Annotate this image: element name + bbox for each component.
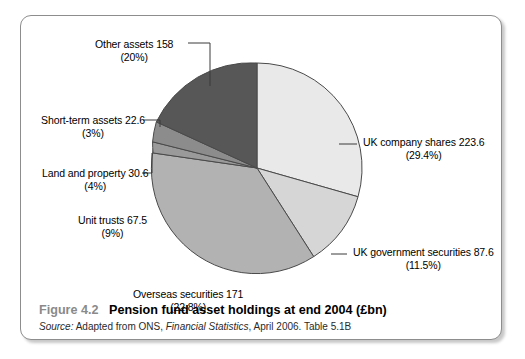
figure-number: Figure 4.2 (39, 303, 99, 317)
label-uk-company-shares-percent: (29.4%) (363, 149, 484, 162)
source-text-after: , April 2006. Table 5.1B (249, 321, 352, 332)
caption-title-line: Figure 4.2 Pension fund asset holdings a… (39, 302, 489, 319)
source-prefix: Source: (39, 321, 73, 332)
figure-source-line: Source: Adapted from ONS, Financial Stat… (39, 320, 489, 334)
label-unit-trusts-value: Unit trusts 67.5 (78, 214, 147, 227)
label-overseas-securities-value: Overseas securities 171 (133, 288, 243, 301)
label-other-assets: Other assets 158 (20%) (95, 38, 173, 64)
pie-chart-area: Other assets 158 (20%) Short-term assets… (21, 16, 503, 287)
source-text-before: Adapted from ONS, (73, 321, 165, 332)
label-uk-government-securities: UK government securities 87.6 (11.5%) (353, 246, 494, 272)
label-land-and-property-value: Land and property 30.6 (42, 167, 148, 180)
label-short-term-assets: Short-term assets 22.6 (3%) (41, 114, 145, 140)
source-journal-name: Financial Statistics (166, 321, 249, 332)
label-short-term-assets-percent: (3%) (41, 127, 145, 140)
label-land-and-property: Land and property 30.6 (4%) (42, 167, 148, 193)
label-unit-trusts-percent: (9%) (78, 227, 147, 240)
label-uk-government-securities-percent: (11.5%) (353, 259, 494, 272)
label-other-assets-percent: (20%) (95, 51, 173, 64)
figure-title: Pension fund asset holdings at end 2004 … (109, 303, 387, 317)
label-unit-trusts: Unit trusts 67.5 (9%) (78, 214, 147, 240)
figure-caption: Figure 4.2 Pension fund asset holdings a… (39, 302, 489, 334)
label-land-and-property-percent: (4%) (42, 180, 148, 193)
label-other-assets-value: Other assets 158 (95, 38, 173, 51)
figure-container: Other assets 158 (20%) Short-term assets… (20, 15, 502, 340)
label-uk-company-shares: UK company shares 223.6 (29.4%) (363, 136, 484, 162)
label-short-term-assets-value: Short-term assets 22.6 (41, 114, 145, 127)
label-uk-government-securities-value: UK government securities 87.6 (353, 246, 494, 259)
label-uk-company-shares-value: UK company shares 223.6 (363, 136, 484, 149)
